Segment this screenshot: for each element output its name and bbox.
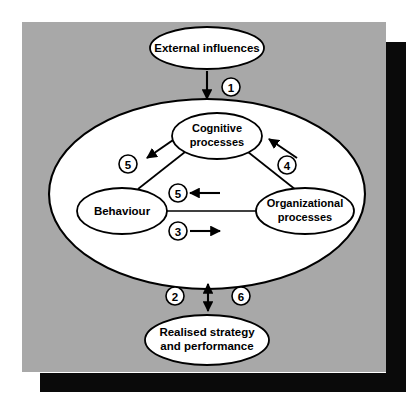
node-cognitive-processes-label-line2: processes <box>190 136 244 148</box>
marker-2-label: 2 <box>172 291 178 303</box>
marker-5-upper-left-label: 5 <box>125 159 132 171</box>
diagram-graphic: External influences Cognitive processes … <box>0 0 419 397</box>
diagram-canvas: External influences Cognitive processes … <box>0 0 419 397</box>
node-organizational-processes-label-line2: processes <box>278 211 332 223</box>
marker-3: 3 <box>169 222 187 240</box>
marker-4: 4 <box>278 156 296 174</box>
marker-1-label: 1 <box>228 82 235 94</box>
node-external-influences-label: External influences <box>154 42 259 54</box>
marker-4-label: 4 <box>284 160 291 172</box>
node-realised-strategy-label-line1: Realised strategy <box>159 326 255 338</box>
node-organizational-processes-label-line1: Organizational <box>267 197 343 209</box>
node-behaviour-label: Behaviour <box>94 205 151 217</box>
node-cognitive-processes-label-line1: Cognitive <box>192 122 242 134</box>
node-realised-strategy-label-line2: and performance <box>160 340 253 352</box>
marker-5-center: 5 <box>169 184 187 202</box>
marker-6: 6 <box>232 287 250 305</box>
marker-3-label: 3 <box>175 226 181 238</box>
marker-5-upper-left: 5 <box>119 155 137 173</box>
marker-6-label: 6 <box>238 291 244 303</box>
marker-2: 2 <box>166 287 184 305</box>
marker-5-center-label: 5 <box>175 188 182 200</box>
marker-1: 1 <box>222 78 240 96</box>
